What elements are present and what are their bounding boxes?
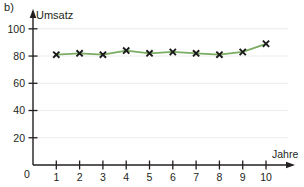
y-tick-label: 80: [13, 50, 25, 62]
x-tick-label: 1: [53, 171, 59, 183]
x-axis-arrowhead: [286, 162, 295, 169]
x-tick-label: 8: [216, 171, 222, 183]
data-markers: [53, 41, 269, 58]
x-tick-label: 10: [260, 171, 272, 183]
x-tick-label: 5: [147, 171, 153, 183]
x-tick-label: 6: [170, 171, 176, 183]
chart-figure: b) Umsatz Jahre 20406080100 12345678910 …: [0, 0, 304, 187]
y-tick-label: 20: [13, 132, 25, 144]
x-tick-label: 2: [77, 171, 83, 183]
y-tick-label: 40: [13, 104, 25, 116]
data-line: [56, 44, 266, 55]
x-tick-label: 3: [100, 171, 106, 183]
x-tick-label: 9: [240, 171, 246, 183]
y-axis-arrowhead: [30, 9, 37, 18]
line-chart-plot: 20406080100 12345678910 0: [0, 0, 304, 187]
y-tick-label: 100: [7, 23, 25, 35]
gridlines: [33, 29, 288, 138]
y-tick-label: 60: [13, 77, 25, 89]
x-axis-ticks: 12345678910: [53, 161, 272, 184]
origin-label: 0: [24, 168, 30, 180]
x-tick-label: 4: [123, 171, 129, 183]
x-tick-label: 7: [193, 171, 199, 183]
